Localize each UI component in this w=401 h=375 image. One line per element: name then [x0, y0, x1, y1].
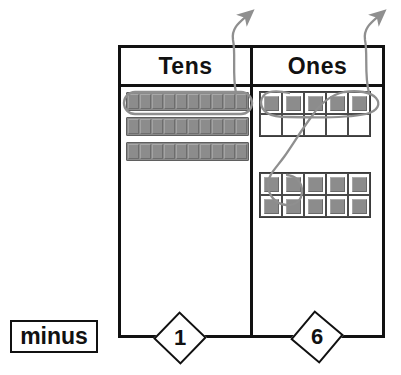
unit-cube [308, 199, 323, 214]
rod-cube [164, 119, 175, 134]
ones-grid-row [260, 92, 370, 114]
ones-cell[interactable] [260, 114, 282, 136]
rod-cube [224, 144, 235, 159]
ones-cell[interactable] [282, 92, 304, 114]
ones-grid-row [260, 173, 370, 195]
ones-grid-row [260, 114, 370, 136]
rod-cube [128, 144, 139, 159]
rod-cube [236, 144, 247, 159]
unit-cube [330, 96, 345, 111]
unit-cube [264, 199, 279, 214]
rod-cube [236, 94, 247, 109]
ones-cell[interactable] [326, 173, 348, 195]
rod-cube [152, 119, 163, 134]
ones-grid-top[interactable] [259, 91, 371, 137]
ones-cell[interactable] [326, 92, 348, 114]
rod-cube [200, 144, 211, 159]
rod-cube [140, 94, 151, 109]
rod-cube [164, 144, 175, 159]
ones-cell[interactable] [348, 114, 370, 136]
column-header-tens: Tens [121, 48, 253, 84]
ones-cell[interactable] [304, 195, 326, 217]
unit-cube [264, 96, 279, 111]
rod-cube [224, 119, 235, 134]
ones-cell[interactable] [326, 195, 348, 217]
rod-cube [140, 144, 151, 159]
unit-cube [286, 177, 301, 192]
tens-place-card-value: 1 [174, 325, 186, 351]
ten-rod[interactable] [126, 117, 249, 136]
ones-cell[interactable] [348, 92, 370, 114]
ones-cell[interactable] [260, 173, 282, 195]
ones-cell[interactable] [348, 195, 370, 217]
rod-cube [152, 144, 163, 159]
ones-column[interactable] [253, 87, 382, 335]
ten-rod[interactable] [126, 142, 249, 161]
ones-place-card-value: 6 [311, 324, 323, 350]
unit-cube [352, 177, 367, 192]
ones-cell[interactable] [348, 173, 370, 195]
worksheet-canvas: Tens Ones minus 1 6 [0, 0, 401, 375]
ones-grid-row [260, 195, 370, 217]
ones-cell[interactable] [282, 114, 304, 136]
ten-rod[interactable] [126, 92, 249, 111]
unit-cube [352, 199, 367, 214]
rod-cube [188, 144, 199, 159]
unit-cube [286, 96, 301, 111]
unit-cube [352, 96, 367, 111]
unit-cube [330, 199, 345, 214]
rod-cube [200, 119, 211, 134]
rod-cube [236, 119, 247, 134]
minus-label: minus [10, 320, 98, 353]
tens-column[interactable] [121, 87, 253, 335]
unit-cube [308, 96, 323, 111]
ones-cell[interactable] [260, 92, 282, 114]
ones-cell[interactable] [326, 114, 348, 136]
unit-cube [286, 199, 301, 214]
rod-cube [176, 144, 187, 159]
rod-cube [128, 94, 139, 109]
ones-cell[interactable] [304, 173, 326, 195]
rod-cube [212, 144, 223, 159]
ones-cell[interactable] [304, 114, 326, 136]
unit-cube [308, 177, 323, 192]
rod-cube [200, 94, 211, 109]
column-header-ones: Ones [253, 48, 382, 84]
table-body [121, 87, 382, 335]
unit-cube [264, 177, 279, 192]
rod-cube [128, 119, 139, 134]
place-value-table: Tens Ones [118, 45, 385, 338]
ten-rod-group [126, 92, 249, 167]
rod-cube [188, 94, 199, 109]
rod-cube [188, 119, 199, 134]
rod-cube [212, 94, 223, 109]
ones-cell[interactable] [282, 195, 304, 217]
ones-cell[interactable] [260, 195, 282, 217]
ones-cell[interactable] [304, 92, 326, 114]
rod-cube [152, 94, 163, 109]
rod-cube [164, 94, 175, 109]
unit-cube [330, 177, 345, 192]
rod-cube [212, 119, 223, 134]
rod-cube [176, 94, 187, 109]
ones-grid-bottom[interactable] [259, 172, 371, 218]
rod-cube [224, 94, 235, 109]
table-header-row: Tens Ones [121, 48, 382, 87]
ones-cell[interactable] [282, 173, 304, 195]
rod-cube [176, 119, 187, 134]
rod-cube [140, 119, 151, 134]
